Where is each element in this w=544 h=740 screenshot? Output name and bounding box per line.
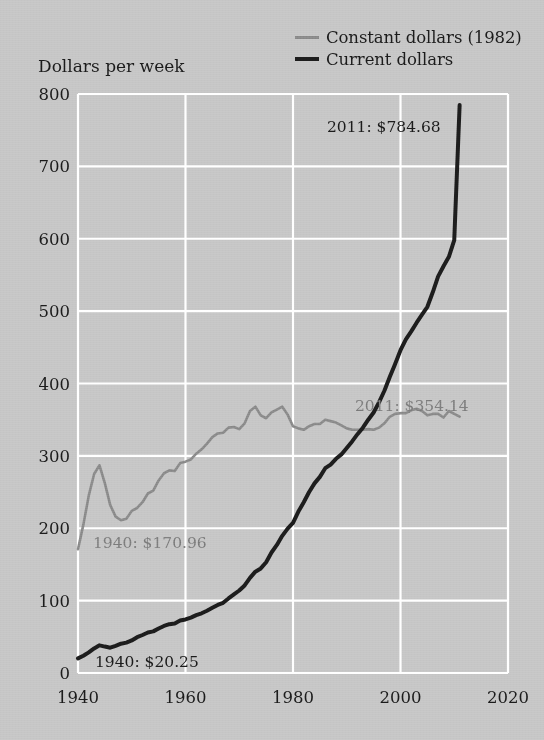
plot-area (0, 0, 544, 740)
y-axis-tick-700: 700 (8, 157, 70, 176)
x-axis-tick-1960: 1960 (165, 688, 207, 707)
annotation-constant-1940: 1940: $170.96 (93, 534, 207, 552)
x-axis-tick-2000: 2000 (380, 688, 422, 707)
y-axis-tick-600: 600 (8, 229, 70, 248)
x-axis-tick-1940: 1940 (57, 688, 99, 707)
annotation-current-2011: 2011: $784.68 (327, 118, 441, 136)
x-axis-tick-1980: 1980 (272, 688, 314, 707)
y-axis-tick-300: 300 (8, 446, 70, 465)
chart-figure: Constant dollars (1982) Current dollars … (0, 0, 544, 740)
y-axis-tick-800: 800 (8, 85, 70, 104)
y-axis-tick-100: 100 (8, 591, 70, 610)
annotation-current-1940: 1940: $20.25 (95, 653, 199, 671)
y-axis-tick-400: 400 (8, 374, 70, 393)
y-axis-tick-0: 0 (8, 664, 70, 683)
series-line-current-dollars (78, 105, 460, 658)
annotation-constant-2011: 2011: $354.14 (355, 397, 469, 415)
y-axis-tick-200: 200 (8, 519, 70, 538)
y-axis-tick-500: 500 (8, 302, 70, 321)
x-axis-tick-2020: 2020 (487, 688, 529, 707)
